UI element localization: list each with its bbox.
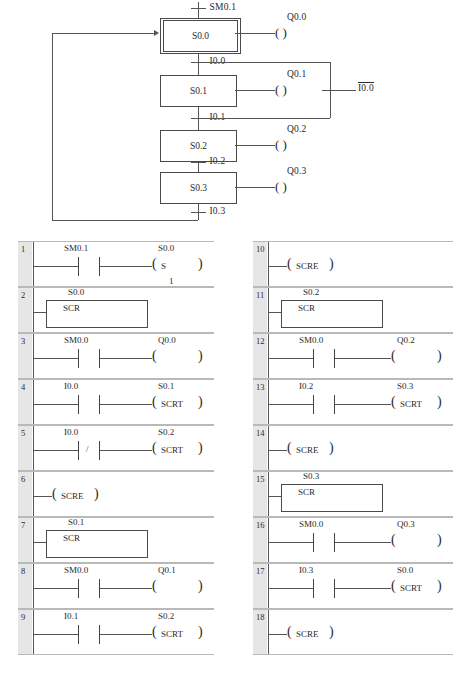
sfc-transition-label-i0-2: I0.2	[210, 156, 226, 166]
coil-paren-open: (	[152, 625, 157, 639]
contact-label: SM0.0	[299, 519, 323, 529]
contact-bar-left	[313, 349, 314, 368]
coil-paren-close: )	[437, 395, 442, 409]
rung-wire-left	[34, 358, 78, 359]
table-row: 4I0.0()SCRTS0.1	[18, 379, 214, 425]
coil-label: S0.2	[158, 427, 174, 437]
scr-box: SCR	[46, 530, 148, 558]
contact-bar-left	[313, 579, 314, 598]
sfc-transition-label-sm0-1: SM0.1	[210, 2, 237, 12]
sfc-transition-tick	[191, 162, 206, 163]
rung-number: 9	[21, 612, 25, 622]
coil-paren-open: (	[391, 349, 396, 363]
scr-box: SCR	[281, 484, 383, 512]
contact-label: SM0.0	[299, 335, 323, 345]
contact-no	[313, 349, 335, 368]
sfc-step-label: S0.3	[190, 183, 207, 193]
coil-paren-close: )	[198, 625, 203, 639]
sfc-branch-top-wire	[198, 62, 331, 63]
rung-wire-left	[34, 266, 78, 267]
table-row: 7SCRS0.1	[18, 517, 214, 563]
rung-number: 4	[21, 382, 25, 392]
sfc-action-coil-q0-1: ( )	[275, 83, 287, 96]
contact-no	[313, 395, 335, 414]
coil-operation: SCRT	[400, 400, 422, 409]
coil-paren-close: )	[94, 487, 99, 501]
contact-label: I0.1	[64, 611, 78, 621]
left-power-rail	[33, 610, 34, 654]
rung-number: 3	[21, 336, 25, 346]
rung-wire-right	[335, 404, 391, 405]
sfc-return-arrow-icon	[154, 30, 159, 36]
coil-label: S0.0	[158, 243, 174, 253]
contact-bar-left	[313, 533, 314, 552]
coil-operation: SCRE	[296, 262, 319, 271]
sfc-action-coil-q0-3: ( )	[275, 180, 287, 193]
rung-wire-left	[34, 496, 52, 497]
contact-label: I0.0	[64, 427, 78, 437]
scr-stub-wire	[34, 542, 46, 543]
sfc-transition-tick	[191, 212, 206, 213]
contact-label: I0.0	[64, 381, 78, 391]
table-row: 2SCRS0.0	[18, 287, 214, 333]
coil-operand: 1	[169, 277, 174, 286]
rung-number: 11	[256, 290, 264, 300]
rung-wire-left	[34, 404, 78, 405]
table-row: 15SCRS0.3	[253, 471, 453, 517]
sfc-step-s0-1: S0.1	[160, 75, 237, 107]
sfc-step-label: S0.0	[192, 31, 209, 41]
sfc-action-coil-q0-2: ( )	[275, 138, 287, 151]
scr-box-label: S0.0	[68, 287, 84, 297]
left-power-rail	[268, 610, 269, 654]
rung-wire-right	[100, 450, 152, 451]
contact-bar-left	[78, 579, 79, 598]
table-row: 1SM0.1()S1S0.0	[18, 241, 214, 287]
contact-label: SM0.0	[64, 565, 88, 575]
coil-paren-open: (	[152, 395, 157, 409]
rung-wire-right	[100, 404, 152, 405]
coil-paren-open: (	[391, 533, 396, 547]
contact-bar-left	[78, 625, 79, 644]
sfc-transition-label-i0-1: I0.1	[210, 112, 226, 122]
sfc-branch-transition-label: I0.0	[358, 82, 374, 94]
sfc-action-label: Q0.1	[287, 69, 307, 79]
left-power-rail	[268, 380, 269, 424]
rung-number: 8	[21, 566, 25, 576]
sfc-action-wire	[235, 33, 275, 34]
rung-wire-left	[269, 358, 313, 359]
scr-box: SCR	[281, 300, 383, 328]
rung-number: 18	[256, 612, 265, 622]
sfc-diagram: S0.0( )Q0.0S0.1( )Q0.1S0.2( )Q0.2S0.3( )…	[0, 0, 475, 232]
rung-number: 15	[256, 474, 265, 484]
left-power-rail	[33, 380, 34, 424]
sfc-return-top-wire	[52, 33, 155, 34]
coil-operation: SCRE	[296, 630, 319, 639]
left-power-rail	[268, 334, 269, 378]
sfc-branch-bottom-wire	[198, 118, 331, 119]
rung-number: 16	[256, 520, 265, 530]
scr-box: SCR	[46, 300, 148, 328]
coil-paren-open: (	[391, 395, 396, 409]
contact-no	[313, 533, 335, 552]
rung-number: 7	[21, 520, 25, 530]
rung-number: 14	[256, 428, 265, 438]
rung-wire-left	[269, 634, 287, 635]
sfc-action-label: Q0.0	[287, 12, 307, 22]
left-power-rail	[33, 472, 34, 516]
contact-bar-left	[78, 257, 79, 276]
coil-operation: S	[161, 262, 166, 271]
rung-wire-right	[100, 634, 152, 635]
coil-operation: SCRT	[161, 446, 183, 455]
coil-operation: SCRT	[161, 400, 183, 409]
coil-paren-close: )	[437, 349, 442, 363]
coil-paren-close: )	[198, 441, 203, 455]
contact-bar-left	[78, 395, 79, 414]
rung-number: 12	[256, 336, 265, 346]
coil-operation: SCRE	[61, 492, 84, 501]
coil-operation: SCRT	[400, 584, 422, 593]
left-power-rail	[268, 426, 269, 470]
table-row: 16SM0.0()Q0.3	[253, 517, 453, 563]
table-row: 3SM0.0()Q0.0	[18, 333, 214, 379]
coil-paren-open: (	[287, 257, 292, 271]
table-row: 10(SCRE)	[253, 241, 453, 287]
